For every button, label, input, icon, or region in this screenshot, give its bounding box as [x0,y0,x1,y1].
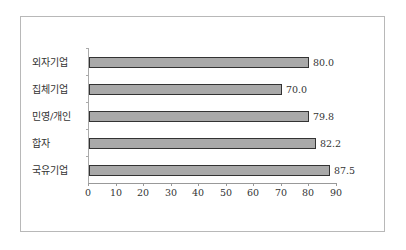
x-tick-label: 10 [101,187,131,198]
y-tick [86,48,89,49]
x-tick-label: 50 [211,187,241,198]
category-label: 외자기업 [32,57,84,68]
chart-frame [20,16,385,232]
value-label: 87.5 [334,165,355,176]
x-tick [281,183,282,186]
x-tick-label: 90 [321,187,351,198]
value-label: 82.2 [320,138,341,149]
x-tick [88,183,89,186]
category-label: 집체기업 [32,84,84,95]
value-label: 79.8 [313,111,334,122]
y-tick [86,156,89,157]
x-tick-label: 0 [73,187,103,198]
bar [89,57,309,68]
bar [89,138,316,149]
x-tick-label: 80 [293,187,323,198]
x-tick-label: 70 [266,187,296,198]
bar [89,165,330,176]
bar [89,84,282,95]
x-tick [336,183,337,186]
category-label: 민영/개인 [32,111,84,122]
y-tick [86,129,89,130]
category-label: 국유기업 [32,165,84,176]
x-tick-label: 30 [156,187,186,198]
x-tick-label: 40 [183,187,213,198]
category-label: 합자 [32,138,84,149]
value-label: 80.0 [313,57,334,68]
x-tick [116,183,117,186]
x-tick [171,183,172,186]
x-tick-label: 20 [128,187,158,198]
x-tick-label: 60 [238,187,268,198]
bar [89,111,309,122]
value-label: 70.0 [286,84,307,95]
y-tick [86,75,89,76]
x-tick [143,183,144,186]
x-tick [253,183,254,186]
x-tick [308,183,309,186]
x-tick [226,183,227,186]
x-tick [198,183,199,186]
x-axis [88,183,336,184]
y-tick [86,102,89,103]
